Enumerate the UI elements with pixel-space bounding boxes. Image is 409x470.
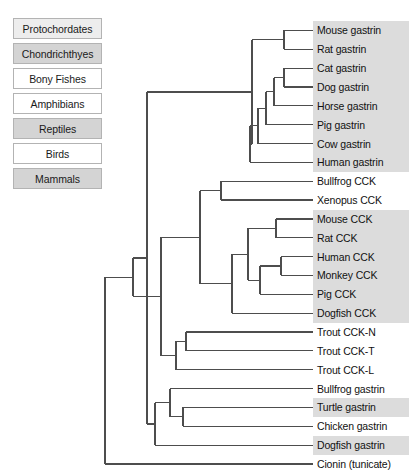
tree-branches [0,0,409,470]
phylogenetic-tree-figure: Protochordates Chondrichthyes Bony Fishe… [0,0,409,470]
